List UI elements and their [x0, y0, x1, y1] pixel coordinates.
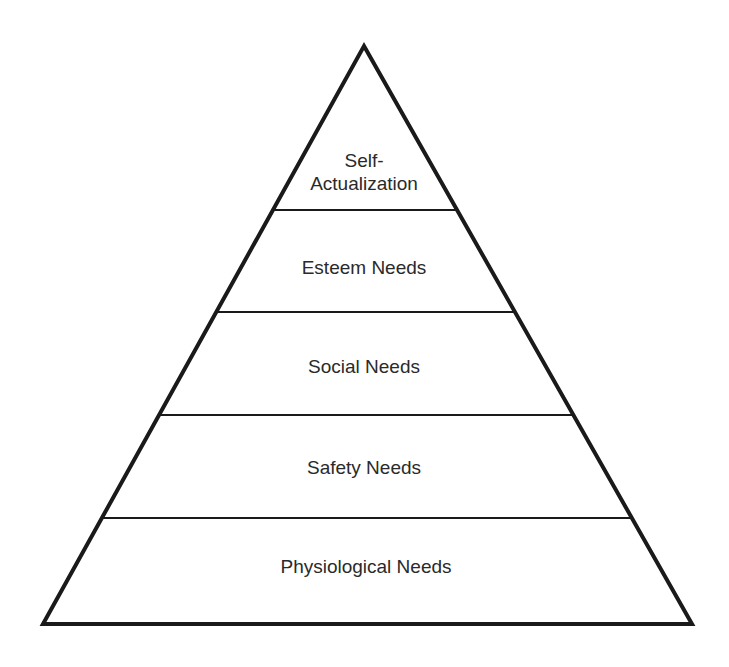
label-line: Self-	[310, 149, 418, 172]
label-social-needs: Social Needs	[308, 355, 420, 378]
label-line: Esteem Needs	[302, 256, 427, 279]
label-esteem-needs: Esteem Needs	[302, 256, 427, 279]
label-safety-needs: Safety Needs	[307, 456, 421, 479]
pyramid-outline	[43, 46, 692, 624]
label-line: Social Needs	[308, 355, 420, 378]
label-line: Safety Needs	[307, 456, 421, 479]
label-line: Actualization	[310, 172, 418, 195]
label-physiological-needs: Physiological Needs	[280, 555, 451, 578]
label-line: Physiological Needs	[280, 555, 451, 578]
label-self-actualization: Self- Actualization	[310, 149, 418, 195]
